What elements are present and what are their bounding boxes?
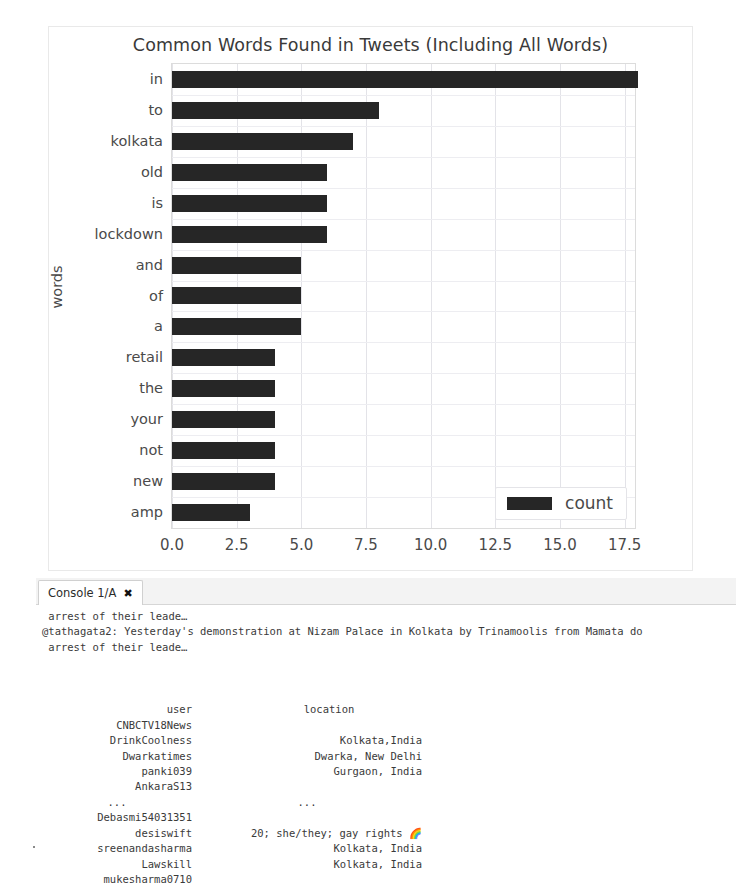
dataframe-row: Debasmi54031351 [42,810,736,825]
legend-label-count: count [565,495,613,512]
dataframe-cell-user: Debasmi54031351 [42,810,192,825]
dataframe-row: AnkaraS13 [42,779,736,794]
dataframe-cell-location: Kolkata, India [192,841,422,856]
console-panel: Console 1/A ✖ arrest of their leade…@tat… [36,578,736,858]
bar-of [172,287,301,304]
bar-a [172,318,301,335]
console-tab-bar: Console 1/A ✖ [36,578,736,605]
bar-is [172,195,327,212]
x-axis-tick-label: 10.0 [414,536,447,554]
bar-lockdown [172,226,327,243]
dataframe-row: ...... [42,795,736,810]
dataframe-cell-user: Lawskill [42,857,192,872]
bar-row: your [172,404,635,435]
bar-row: a [172,311,635,342]
bar-row: not [172,435,635,466]
dataframe-row: desiswift20; she/they; gay rights 🌈 [42,826,736,841]
x-axis-tick-label: 0.0 [160,536,184,554]
x-axis-tick-label: 12.5 [479,536,512,554]
dataframe-header-row: userlocation [42,702,736,717]
y-axis-tick-label: is [151,194,163,213]
bar-row: lockdown [172,219,635,250]
plot-area: 0.02.55.07.510.012.515.017.5intokolkatao… [171,63,636,529]
bar-row: of [172,281,635,312]
bar-old [172,164,327,181]
bar-row: old [172,157,635,188]
y-axis-tick-label: new [133,472,163,491]
dataframe-row: DrinkCoolnessKolkata,India [42,733,736,748]
y-axis-tick-label: to [148,101,163,120]
dataframe-cell-user: Dwarkatimes [42,749,192,764]
bar-row: and [172,250,635,281]
dataframe-cell-location: Gurgaon, India [192,764,422,779]
bar-the [172,380,275,397]
bar-row: kolkata [172,126,635,157]
bar-row: the [172,373,635,404]
dataframe-cell-user: DrinkCoolness [42,733,192,748]
console-tab-label: Console 1/A [48,586,116,600]
bar-row: in [172,64,635,95]
dataframe-cell-location: Dwarka, New Delhi [192,749,422,764]
y-axis-tick-label: of [149,287,163,306]
dataframe-cell-location [192,779,422,794]
dataframe-cell-user: CNBCTV18News [42,718,192,733]
dataframe-row: CNBCTV18News [42,718,736,733]
x-axis-tick-label: 5.0 [289,536,313,554]
console-text-line: arrest of their leade… [42,609,736,624]
x-axis-tick-label: 2.5 [225,536,249,554]
dataframe-cell-user: sreenandasharma [42,841,192,856]
bar-your [172,411,275,428]
dataframe-cell-user: panki039 [42,764,192,779]
dataframe-cell-user: ... [42,795,192,810]
dataframe-row: DwarkatimesDwarka, New Delhi [42,749,736,764]
legend-swatch-count [507,497,552,510]
console-output: arrest of their leade…@tathagata2: Yeste… [36,605,736,887]
x-axis-tick-label: 17.5 [608,536,641,554]
bar-not [172,442,275,459]
console-text-line: @tathagata2: Yesterday's demonstration a… [42,624,736,639]
bar-in [172,71,638,88]
chart-legend: count [495,487,627,520]
x-axis-tick-label: 15.0 [543,536,576,554]
dataframe-cell-location: 20; she/they; gay rights 🌈 [192,826,422,841]
bar-and [172,257,301,274]
dataframe-cell-location: ... [192,795,422,810]
y-axis-tick-label: in [150,70,163,89]
y-axis-tick-label: old [141,163,163,182]
chart-figure-panel: Common Words Found in Tweets (Including … [48,26,693,571]
page-artifact-dot [33,846,35,848]
bar-row: is [172,188,635,219]
dataframe-cell-location [192,810,422,825]
bar-new [172,473,275,490]
close-icon[interactable]: ✖ [123,588,132,599]
bar-row: retail [172,342,635,373]
y-axis-tick-label: a [154,317,163,336]
dataframe-cell-location: Kolkata,India [192,733,422,748]
console-text-line: arrest of their leade… [42,640,736,655]
dataframe-column-header: location [214,702,444,717]
dataframe-cell-location [192,872,422,887]
bar-row: to [172,95,635,126]
chart-title: Common Words Found in Tweets (Including … [49,35,692,55]
bar-retail [172,349,275,366]
dataframe-row: mukesharma0710 [42,872,736,887]
y-axis-tick-label: lockdown [95,225,163,244]
y-axis-tick-label: and [136,256,163,275]
dataframe-cell-user: desiswift [42,826,192,841]
dataframe-row: LawskillKolkata, India [42,857,736,872]
y-axis-tick-label: not [139,441,163,460]
y-axis-title: words [49,265,65,308]
bar-to [172,102,379,119]
console-dataframe: userlocationCNBCTV18NewsDrinkCoolnessKol… [42,702,736,887]
y-axis-tick-label: the [139,379,163,398]
dataframe-row: sreenandasharmaKolkata, India [42,841,736,856]
dataframe-cell-user: AnkaraS13 [42,779,192,794]
y-axis-tick-label: your [130,410,163,429]
dataframe-row: panki039Gurgaon, India [42,764,736,779]
console-tab[interactable]: Console 1/A ✖ [38,580,143,605]
y-axis-tick-label: amp [131,503,163,522]
y-axis-tick-label: retail [126,348,163,367]
bar-amp [172,504,250,521]
dataframe-cell-user: mukesharma0710 [42,872,192,887]
y-axis-tick-label: kolkata [111,132,163,151]
